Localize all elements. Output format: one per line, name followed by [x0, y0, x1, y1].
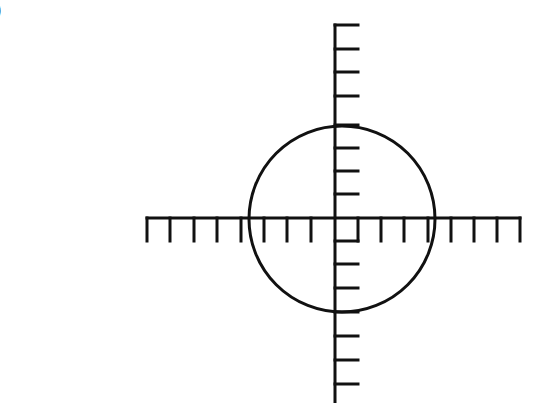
unit-square-marker: [335, 218, 358, 241]
axes-and-circle-plot: [0, 0, 533, 403]
figure-label: ): [0, 0, 1, 22]
y-axis: [335, 25, 358, 403]
coordinate-diagram: ): [0, 0, 533, 403]
